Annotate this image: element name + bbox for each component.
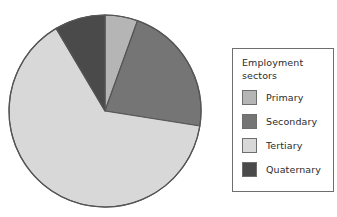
legend-item-quaternary[interactable]: Quaternary (242, 157, 333, 181)
legend-label-tertiary: Tertiary (266, 140, 302, 151)
legend-label-primary: Primary (266, 92, 303, 103)
legend-swatch-tertiary (242, 138, 257, 153)
chart-legend: Employment sectors PrimarySecondaryTerti… (232, 48, 334, 192)
legend-title: Employment sectors (242, 56, 328, 82)
legend-swatch-secondary (242, 114, 257, 129)
legend-item-primary[interactable]: Primary (242, 85, 333, 109)
legend-item-tertiary[interactable]: Tertiary (242, 133, 333, 157)
pie-chart-svg (0, 0, 215, 217)
chart-canvas: Employment sectors PrimarySecondaryTerti… (0, 0, 337, 217)
pie-chart (0, 0, 215, 217)
legend-label-quaternary: Quaternary (266, 164, 321, 175)
legend-title-line-2: sectors (242, 69, 328, 82)
legend-item-secondary[interactable]: Secondary (242, 109, 333, 133)
legend-label-secondary: Secondary (266, 116, 317, 127)
legend-title-line-1: Employment (242, 56, 328, 69)
legend-swatch-quaternary (242, 162, 257, 177)
legend-swatch-primary (242, 90, 257, 105)
pie-slice-group (9, 15, 201, 207)
legend-item-list: PrimarySecondaryTertiaryQuaternary (242, 85, 333, 181)
